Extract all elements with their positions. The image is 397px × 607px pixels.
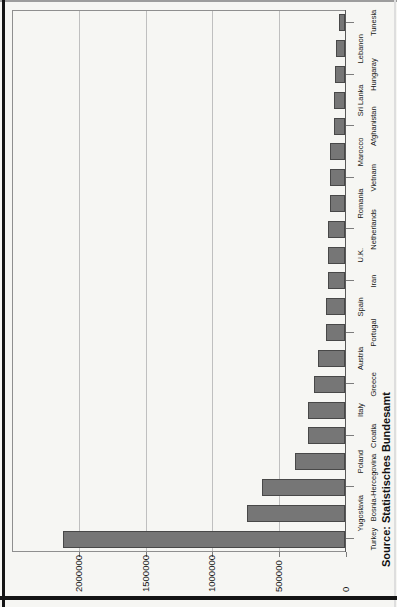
value-axis-label: 0 — [341, 587, 351, 592]
plot-area — [12, 10, 346, 552]
bar-italy — [308, 402, 345, 419]
category-axis-tick — [346, 383, 354, 384]
source-note: Source: Statistisches Bundesamt — [380, 392, 392, 567]
bar-romania — [330, 195, 345, 212]
bar-turkey — [63, 531, 345, 548]
value-axis-label: 500000 — [274, 560, 284, 592]
grid-line — [212, 11, 213, 551]
value-axis-label: 1000000 — [207, 555, 217, 592]
bar-croatia — [308, 427, 345, 444]
bar-spain — [326, 298, 345, 315]
category-axis-tick — [346, 435, 354, 436]
rotated-chart-canvas: Source: Statistisches Bundesamt 05000001… — [0, 0, 397, 607]
grid-line — [146, 11, 147, 551]
category-label: Tunesia — [370, 0, 378, 65]
value-axis-label: 1500000 — [141, 555, 151, 592]
bar-poland — [295, 453, 345, 470]
bar-portugal — [326, 324, 345, 341]
bar-bosnia-hercegovina — [262, 479, 345, 496]
category-axis-tick — [346, 228, 354, 229]
bar-vietnam — [330, 169, 345, 186]
bar-iran — [328, 273, 345, 290]
category-axis-tick — [346, 74, 354, 75]
category-axis-tick — [346, 486, 354, 487]
bar-marocco — [330, 143, 345, 160]
bar-hungaray — [335, 66, 345, 83]
bar-tunesia — [339, 14, 345, 31]
bar-yugoslavia — [247, 505, 345, 522]
bar-lebanon — [336, 40, 345, 57]
category-axis-tick — [346, 332, 354, 333]
grid-line — [279, 11, 280, 551]
bar-greece — [314, 376, 345, 393]
value-axis-label: 2000000 — [74, 555, 84, 592]
value-axis-tick — [279, 552, 280, 557]
value-axis-tick — [346, 552, 347, 557]
category-axis-tick — [346, 538, 354, 539]
category-axis-tick — [346, 280, 354, 281]
grid-line — [79, 11, 80, 551]
bar-netherlands — [328, 221, 345, 238]
bar-afghanistan — [334, 118, 345, 135]
category-label: Lebanon — [357, 7, 365, 91]
bar-u-k- — [328, 247, 345, 264]
bar-sri-lanka — [334, 92, 345, 109]
scanned-page: Source: Statistisches Bundesamt 05000001… — [0, 0, 397, 607]
bar-austria — [318, 350, 345, 367]
category-axis-tick — [346, 177, 354, 178]
category-axis-tick — [346, 125, 354, 126]
category-axis-line — [345, 10, 346, 552]
category-axis-tick — [346, 22, 354, 23]
